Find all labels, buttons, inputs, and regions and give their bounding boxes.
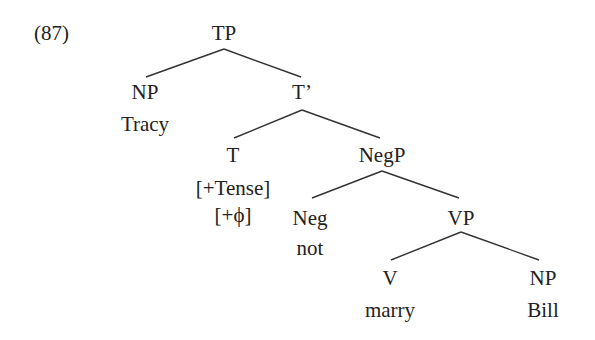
tree-edges [0, 0, 595, 340]
node-t: T [227, 143, 240, 167]
node-negp: NegP [359, 143, 406, 167]
edge-vp-np [461, 232, 539, 260]
word-not: not [297, 236, 324, 260]
edge-negp-neg [312, 171, 382, 198]
node-np-object: NP [530, 266, 557, 290]
node-vp: VP [448, 206, 475, 230]
node-t-bar: T’ [292, 80, 312, 104]
feature-tense: [+Tense] [196, 176, 271, 200]
node-tp: TP [212, 21, 237, 45]
word-tracy: Tracy [121, 112, 169, 136]
word-marry: marry [365, 298, 415, 322]
edge-tp-np [146, 49, 224, 77]
edge-tbar-t [234, 110, 302, 138]
edge-tp-tbar [224, 49, 301, 77]
edge-tbar-negp [302, 110, 380, 138]
node-np-subject: NP [132, 80, 159, 104]
edge-negp-vp [382, 171, 459, 198]
feature-phi: [+ϕ] [215, 203, 252, 227]
node-v: V [382, 266, 397, 290]
edge-vp-v [391, 232, 461, 260]
word-bill: Bill [527, 298, 559, 322]
node-neg: Neg [293, 206, 328, 230]
